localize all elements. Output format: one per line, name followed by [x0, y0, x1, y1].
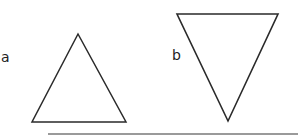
triangle-b: [177, 14, 278, 121]
diagram: a b: [0, 0, 298, 135]
triangles-canvas: [0, 0, 298, 135]
triangle-a: [32, 34, 126, 122]
